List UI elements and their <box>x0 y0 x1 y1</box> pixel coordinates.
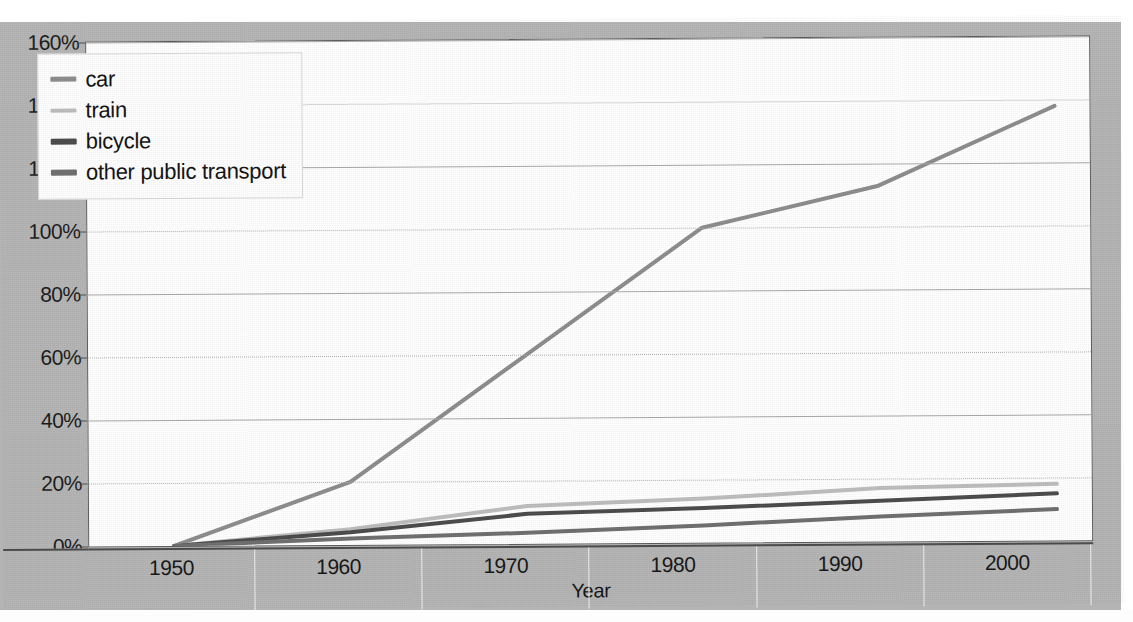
page-bottom-margin <box>0 610 1133 622</box>
legend-item-car[interactable]: car <box>50 62 285 94</box>
legend-item-other-public-transport[interactable]: other public transport <box>51 155 286 187</box>
x-axis-cell: 2000 <box>924 544 1092 606</box>
chart-legend: cartrainbicycleother public transport <box>37 52 303 200</box>
y-axis-tick-label: 20% <box>41 472 82 496</box>
y-axis-tick-mark <box>80 420 87 421</box>
y-axis-tick-label: 40% <box>41 409 82 433</box>
x-axis-tick-label: 1960 <box>255 554 421 579</box>
y-axis-tick-mark <box>78 42 85 43</box>
y-axis-tick-mark <box>80 357 87 358</box>
x-axis-tick-label: 2000 <box>924 550 1090 575</box>
y-axis-tick-label: 100% <box>28 220 80 244</box>
legend-item-label: car <box>85 68 115 90</box>
legend-item-bicycle[interactable]: bicycle <box>51 124 286 156</box>
legend-item-label: train <box>85 99 126 121</box>
legend-swatch-icon <box>50 77 76 82</box>
y-axis-tick-label: 60% <box>40 346 81 370</box>
y-axis-tick-mark <box>81 483 88 484</box>
legend-swatch-icon <box>51 138 77 144</box>
x-axis-cell: 1960 <box>255 548 423 610</box>
legend-swatch-icon <box>51 108 77 112</box>
x-axis-cell: 1990 <box>757 545 925 607</box>
y-axis-tick-mark <box>81 546 88 547</box>
legend-item-train[interactable]: train <box>50 93 285 125</box>
x-axis-tick-label: 1990 <box>757 551 923 576</box>
x-axis-cell: 1980 <box>590 546 758 608</box>
x-axis-tick-label: 1950 <box>88 555 254 580</box>
x-axis-cell: 1950 <box>88 549 256 611</box>
series-line-other-public-transport <box>174 509 1057 546</box>
legend-swatch-icon <box>51 169 77 175</box>
y-axis-tick-label: 80% <box>40 283 81 307</box>
legend-item-label: other public transport <box>86 160 286 183</box>
axis-corner-band <box>3 548 88 610</box>
y-axis-tick-label: 160% <box>27 31 79 55</box>
legend-item-label: bicycle <box>86 130 151 152</box>
line-chart: ding graphs, tables and charts transport… <box>0 22 1121 610</box>
scanned-page: ding graphs, tables and charts transport… <box>0 0 1133 622</box>
x-axis-tick-label: 1980 <box>590 552 756 577</box>
y-axis-tick-mark <box>79 231 86 232</box>
y-axis-tick-mark <box>80 294 87 295</box>
x-axis: Year 195019601970198019902000 <box>88 542 1093 609</box>
x-axis-tick-label: 1970 <box>423 553 589 578</box>
x-axis-cell: 1970 <box>423 547 591 609</box>
